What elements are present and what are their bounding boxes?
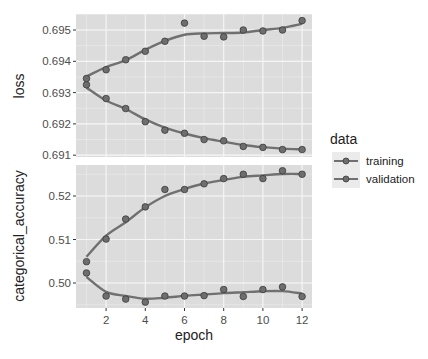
data-point-training [181, 130, 188, 137]
data-point-training [299, 171, 306, 178]
data-point-training [162, 186, 169, 193]
data-point-validation [299, 17, 306, 24]
legend-label-training: training [366, 155, 404, 167]
data-point-validation [201, 33, 208, 40]
loss-panel: 0.6910.6920.6930.6940.695 [42, 14, 312, 161]
data-point-training [220, 138, 227, 145]
data-point-training [279, 167, 286, 174]
legend-title: data [330, 131, 357, 147]
data-point-training [181, 186, 188, 193]
y-tick-label: 0.694 [42, 55, 71, 67]
data-point-training [83, 258, 90, 265]
data-point-training [103, 236, 110, 243]
data-point-training [122, 105, 129, 112]
y-tick-label: 0.695 [42, 24, 71, 36]
data-point-validation [83, 75, 90, 82]
data-point-validation [122, 296, 129, 303]
data-point-training [142, 118, 149, 125]
data-point-training [201, 181, 208, 188]
data-point-training [240, 171, 247, 178]
data-point-validation [162, 38, 169, 45]
data-point-training [260, 175, 267, 182]
data-point-validation [240, 27, 247, 34]
data-point-validation [260, 286, 267, 293]
data-point-validation [83, 270, 90, 277]
data-point-training [220, 175, 227, 182]
x-axis: 24681012 [103, 308, 309, 326]
x-axis-label: epoch [175, 327, 213, 343]
data-point-validation [122, 56, 129, 63]
x-tick-label: 8 [220, 314, 226, 326]
data-point-validation [240, 293, 247, 300]
y-axis-label-accuracy: categorical_accuracy [11, 170, 27, 302]
data-point-validation [299, 293, 306, 300]
y-tick-label: 0.692 [42, 118, 71, 130]
y-tick-label: 0.51 [49, 234, 71, 246]
data-point-validation [181, 293, 188, 300]
x-tick-label: 6 [181, 314, 187, 326]
data-point-validation [220, 286, 227, 293]
data-point-validation [103, 66, 110, 73]
x-tick-label: 12 [296, 314, 309, 326]
x-tick-label: 4 [142, 314, 149, 326]
legend-label-validation: validation [366, 173, 415, 185]
legend-point-icon [343, 158, 349, 164]
data-point-training [122, 216, 129, 223]
data-point-validation [162, 293, 169, 300]
y-tick-label: 0.50 [49, 277, 71, 289]
data-point-validation [279, 27, 286, 34]
data-point-training [260, 144, 267, 151]
y-tick-label: 0.52 [49, 190, 71, 202]
data-point-validation [181, 20, 188, 27]
data-point-training [83, 81, 90, 88]
data-point-training [240, 143, 247, 150]
data-point-validation [201, 292, 208, 299]
data-point-training [279, 146, 286, 153]
legend: data training validation [330, 131, 415, 188]
data-point-training [201, 136, 208, 143]
faceted-line-chart: 0.6910.6920.6930.6940.695 0.500.510.52 2… [0, 0, 428, 359]
x-tick-label: 2 [103, 314, 109, 326]
data-point-training [162, 127, 169, 134]
data-point-validation [220, 34, 227, 41]
legend-point-icon [343, 176, 349, 182]
data-point-validation [260, 28, 267, 35]
y-axis-label-loss: loss [11, 74, 27, 99]
data-point-training [103, 95, 110, 102]
data-point-validation [142, 48, 149, 55]
data-point-validation [279, 284, 286, 291]
y-tick-label: 0.693 [42, 87, 71, 99]
x-tick-label: 10 [257, 314, 270, 326]
data-point-validation [103, 293, 110, 300]
data-point-validation [142, 299, 149, 306]
y-tick-label: 0.691 [42, 149, 71, 161]
data-point-training [299, 146, 306, 153]
accuracy-panel: 0.500.510.52 [49, 165, 312, 308]
data-point-training [142, 204, 149, 211]
